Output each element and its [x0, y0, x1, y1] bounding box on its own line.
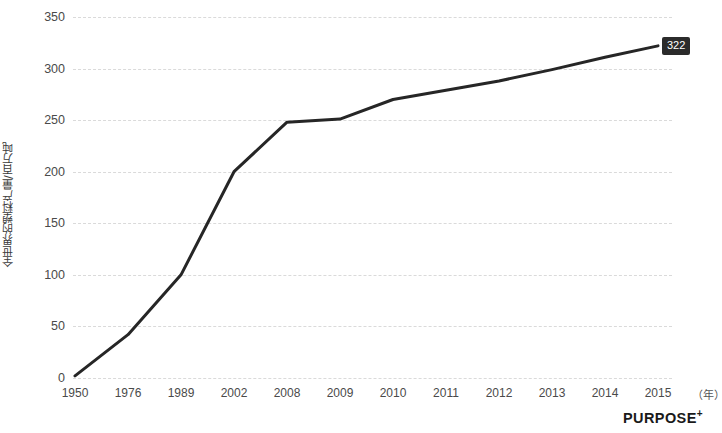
y-tick-label: 100 [25, 268, 65, 282]
y-tick-label: 150 [25, 216, 65, 230]
series-line-plastic-production [73, 17, 672, 378]
x-tick-label: 1976 [98, 386, 158, 400]
x-tick-label: 2013 [522, 386, 582, 400]
x-tick-label: 2010 [363, 386, 423, 400]
x-tick-label: 1989 [151, 386, 211, 400]
y-tick-label: 300 [25, 62, 65, 76]
plot-area [73, 17, 672, 378]
y-tick-label: 350 [25, 10, 65, 24]
x-axis-tick-labels: 1950197619892002200820092010201120122013… [0, 386, 717, 404]
brand-superscript: + [697, 408, 703, 419]
x-tick-label: 2011 [416, 386, 476, 400]
x-tick-label: 2008 [257, 386, 317, 400]
x-tick-label: 2014 [575, 386, 635, 400]
y-tick-label: 250 [25, 113, 65, 127]
y-axis-title: 全世界的塑料产量/百万吨 [2, 120, 20, 290]
x-tick-label: 2012 [469, 386, 529, 400]
brand-logo: PURPOSE+ [623, 410, 703, 426]
y-tick-label: 0 [25, 371, 65, 385]
x-tick-label: 2002 [204, 386, 264, 400]
y-tick-label: 50 [25, 319, 65, 333]
y-tick-label: 200 [25, 165, 65, 179]
data-label-2015: 322 [662, 37, 690, 55]
gridline-0 [73, 378, 672, 379]
x-tick-label: 1950 [45, 386, 105, 400]
x-axis-unit-label: （年） [678, 386, 722, 402]
y-axis-tick-labels: 350300250200150100500 [20, 17, 65, 378]
x-tick-label: 2009 [310, 386, 370, 400]
brand-name: PURPOSE [623, 410, 697, 426]
